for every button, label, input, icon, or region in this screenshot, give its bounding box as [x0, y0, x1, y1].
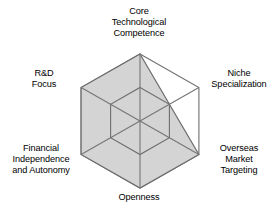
radar-chart-figure: Core Technological Competence Niche Spec…	[0, 0, 278, 216]
axis-label-niche-specialization: Niche Specialization	[200, 68, 278, 90]
axis-label-overseas-market-targeting: Overseas Market Targeting	[200, 143, 278, 175]
axis-label-core-technological-competence: Core Technological Competence	[0, 6, 278, 38]
axis-label-rd-focus: R&D Focus	[8, 68, 80, 90]
axis-label-financial-independence-and-autonomy: Financial Independence and Autonomy	[0, 143, 82, 175]
axis-label-openness: Openness	[0, 192, 278, 203]
